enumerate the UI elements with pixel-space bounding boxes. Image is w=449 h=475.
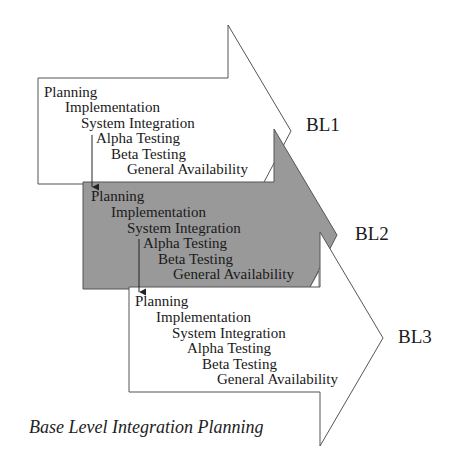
bl3-stage-general-availability: General Availability xyxy=(217,371,338,387)
bl1-stage-alpha-testing: Alpha Testing xyxy=(96,130,181,146)
integration-diagram: Planning Implementation System Integrati… xyxy=(0,0,449,475)
bl2-stage-implementation: Implementation xyxy=(111,204,206,220)
diagram-caption: Base Level Integration Planning xyxy=(29,417,263,437)
bl1-stage-planning: Planning xyxy=(44,84,98,100)
bl3-label: BL3 xyxy=(398,326,432,347)
bl2-stage-beta-testing: Beta Testing xyxy=(158,251,233,267)
bl2-stage-system-integration: System Integration xyxy=(127,220,241,236)
bl3-stage-implementation: Implementation xyxy=(156,309,251,325)
bl1-stage-general-availability: General Availability xyxy=(127,161,248,177)
bl3-stage-alpha-testing: Alpha Testing xyxy=(187,340,272,356)
bl2-stage-alpha-testing: Alpha Testing xyxy=(143,235,228,251)
bl1-group: Planning Implementation System Integrati… xyxy=(38,25,340,184)
bl1-stage-system-integration: System Integration xyxy=(81,115,195,131)
bl3-stage-planning: Planning xyxy=(135,293,189,309)
bl3-stage-system-integration: System Integration xyxy=(172,325,286,341)
bl2-stage-general-availability: General Availability xyxy=(173,266,294,282)
bl2-stage-planning: Planning xyxy=(91,188,145,204)
bl1-stage-beta-testing: Beta Testing xyxy=(111,146,186,162)
bl2-label: BL2 xyxy=(355,223,389,244)
bl1-label: BL1 xyxy=(306,114,340,135)
bl3-stage-beta-testing: Beta Testing xyxy=(202,356,277,372)
bl1-stage-implementation: Implementation xyxy=(65,99,160,115)
